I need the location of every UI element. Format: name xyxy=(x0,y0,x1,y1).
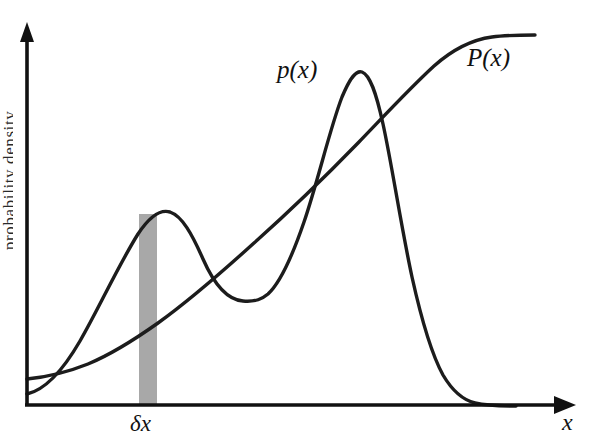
density-curve-p-of-x xyxy=(27,72,516,406)
cumulative-curve-label: P(x) xyxy=(467,45,510,70)
figure-root: probability density p(x) P(x) δx x xyxy=(0,0,591,443)
delta-x-shaded-slab xyxy=(139,214,157,405)
y-axis-arrowhead xyxy=(20,22,34,42)
density-curve-label: p(x) xyxy=(277,57,317,82)
cumulative-curve-P-of-x xyxy=(27,35,535,379)
x-axis-label: x xyxy=(562,410,573,434)
delta-x-label: δx xyxy=(130,412,151,435)
